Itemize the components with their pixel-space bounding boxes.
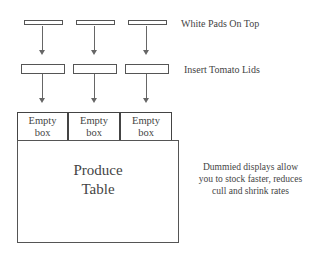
tomato-lid-3 [125,64,169,74]
note-line1: Dummied displays allow [188,161,311,173]
white-pad-3 [128,20,167,25]
empty-box-3: Empty box [120,112,172,141]
empty-box-label: box [121,127,171,139]
dummied-displays-note: Dummied displays allow you to stock fast… [188,161,311,197]
produce-table: Produce Table [17,140,179,243]
empty-box-label: Empty [121,115,171,127]
empty-box-label: Empty [69,115,119,127]
tomato-lid-1 [21,64,65,74]
arrow-down-1b [42,74,43,99]
produce-table-line1: Produce [18,161,178,180]
empty-box-1: Empty box [17,112,68,141]
produce-table-label: Produce Table [18,161,178,199]
arrowhead-icon [143,50,149,55]
white-pad-1 [24,20,63,25]
empty-box-label: Empty [18,115,67,127]
empty-box-label: box [69,127,119,139]
tomato-lids-label: Insert Tomato Lids [184,64,260,75]
arrowhead-icon [91,50,97,55]
note-line2: you to stock faster, reduces [188,173,311,185]
note-line3: cull and shrink rates [188,185,311,197]
arrowhead-icon [143,98,149,103]
arrowhead-icon [39,98,45,103]
produce-table-line2: Table [18,180,178,199]
arrow-down-3b [146,74,147,99]
empty-box-2: Empty box [68,112,120,141]
arrowhead-icon [39,50,45,55]
arrowhead-icon [91,98,97,103]
empty-box-label: box [18,127,67,139]
white-pad-2 [76,20,115,25]
tomato-lid-2 [73,64,117,74]
arrow-down-3a [146,26,147,51]
arrow-down-2a [94,26,95,51]
arrow-down-2b [94,74,95,99]
white-pads-label: White Pads On Top [181,18,259,29]
arrow-down-1a [42,26,43,51]
